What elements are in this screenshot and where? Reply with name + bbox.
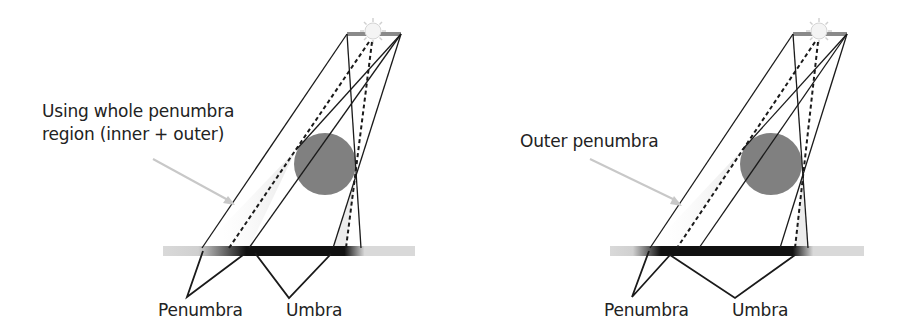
- diagram-graphics: [0, 0, 905, 336]
- label-brackets: [632, 251, 795, 298]
- penumbra-shading-left: [202, 150, 296, 248]
- outer-penumbra-shading-left: [650, 150, 742, 248]
- right-penumbra-label: Penumbra: [604, 299, 689, 321]
- left-panel: [153, 18, 415, 298]
- sun-icon: [806, 18, 832, 44]
- right-annotation: Outer penumbra: [520, 130, 658, 152]
- left-umbra-label: Umbra: [286, 299, 342, 321]
- right-umbra-label: Umbra: [732, 299, 788, 321]
- annotation-arrow-left: [153, 159, 235, 205]
- right-panel: [590, 18, 864, 298]
- label-brackets: [187, 251, 331, 298]
- ground-plane: [163, 246, 415, 256]
- sun-icon: [360, 18, 386, 44]
- penumbra-diagram-figure: Using whole penumbra region (inner + out…: [0, 0, 905, 336]
- left-penumbra-label: Penumbra: [158, 299, 243, 321]
- annotation-arrow-right: [590, 159, 682, 206]
- left-annotation-line1: Using whole penumbra: [42, 100, 234, 122]
- left-annotation-line2: region (inner + outer): [42, 123, 224, 145]
